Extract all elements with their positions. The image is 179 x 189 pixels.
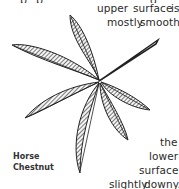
leaflet-bottom	[76, 83, 99, 173]
leaf-stalk	[99, 40, 158, 81]
horse-chestnut-leaf-illustration	[0, 0, 179, 189]
